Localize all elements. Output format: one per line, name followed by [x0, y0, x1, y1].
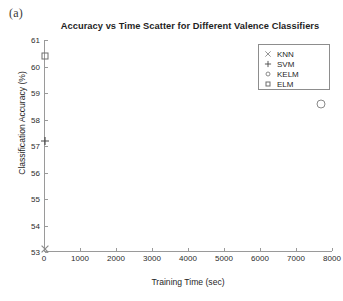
- x-tick-label: 7000: [287, 254, 305, 263]
- x-tick-label: 2000: [107, 254, 125, 263]
- y-tick-mark: [45, 93, 48, 94]
- legend-marker: [259, 79, 277, 89]
- x-axis-line: [44, 251, 332, 252]
- legend-item-elm[interactable]: ELM: [259, 79, 329, 89]
- y-tick-mark: [45, 199, 48, 200]
- x-tick-mark: [260, 248, 261, 251]
- plus-icon: [265, 61, 272, 68]
- data-point-elm: [42, 52, 49, 59]
- x-tick-label: 3000: [143, 254, 161, 263]
- x-tick-mark: [224, 248, 225, 251]
- legend-item-knn[interactable]: KNN: [259, 49, 329, 59]
- y-axis-label: Classification Accuracy (%): [17, 48, 27, 198]
- x-tick-mark: [116, 248, 117, 251]
- x-tick-label: 6000: [251, 254, 269, 263]
- legend-item-svm[interactable]: SVM: [259, 59, 329, 69]
- y-tick-label: 56: [31, 168, 40, 177]
- circle-icon: [266, 72, 271, 77]
- legend-label: KNN: [277, 50, 294, 59]
- y-tick-label: 60: [31, 62, 40, 71]
- x-tick-label: 5000: [215, 254, 233, 263]
- x-tick-mark: [188, 248, 189, 251]
- y-tick-mark: [45, 67, 48, 68]
- circle-icon: [317, 99, 326, 108]
- x-tick-label: 1000: [71, 254, 89, 263]
- x-cross-icon: [40, 245, 49, 254]
- y-tick-mark: [45, 146, 48, 147]
- legend-label: KELM: [277, 70, 299, 79]
- y-tick-label: 54: [31, 221, 40, 230]
- x-tick-label: 8000: [323, 254, 341, 263]
- data-point-svm: [40, 136, 49, 145]
- x-tick-mark: [332, 248, 333, 251]
- square-icon: [266, 82, 271, 87]
- chart-title: Accuracy vs Time Scatter for Different V…: [44, 21, 336, 31]
- data-point-knn: [40, 245, 49, 254]
- y-tick-label: 57: [31, 142, 40, 151]
- y-tick-label: 53: [31, 248, 40, 257]
- y-tick-label: 55: [31, 195, 40, 204]
- x-tick-label: 4000: [179, 254, 197, 263]
- y-tick-label: 59: [31, 89, 40, 98]
- panel-letter: (a): [9, 6, 23, 21]
- legend-box: KNNSVMKELMELM: [258, 44, 330, 90]
- x-tick-mark: [152, 248, 153, 251]
- y-tick-mark: [45, 40, 48, 41]
- x-tick-mark: [296, 248, 297, 251]
- y-tick-label: 58: [31, 115, 40, 124]
- x-tick-label: 0: [42, 254, 46, 263]
- legend-marker: [259, 59, 277, 69]
- x-tick-mark: [80, 248, 81, 251]
- y-tick-mark: [45, 120, 48, 121]
- legend-marker: [259, 49, 277, 59]
- x-axis-label: Training Time (sec): [44, 277, 332, 287]
- data-point-kelm: [317, 99, 326, 108]
- x-cross-icon: [265, 51, 272, 58]
- square-icon: [42, 52, 49, 59]
- y-tick-label: 61: [31, 36, 40, 45]
- legend-label: SVM: [277, 60, 294, 69]
- y-tick-mark: [45, 173, 48, 174]
- legend-label: ELM: [277, 80, 293, 89]
- plus-icon: [40, 136, 49, 145]
- legend-marker: [259, 69, 277, 79]
- figure-panel: (a) Accuracy vs Time Scatter for Differe…: [0, 0, 343, 301]
- legend-item-kelm[interactable]: KELM: [259, 69, 329, 79]
- y-tick-mark: [45, 226, 48, 227]
